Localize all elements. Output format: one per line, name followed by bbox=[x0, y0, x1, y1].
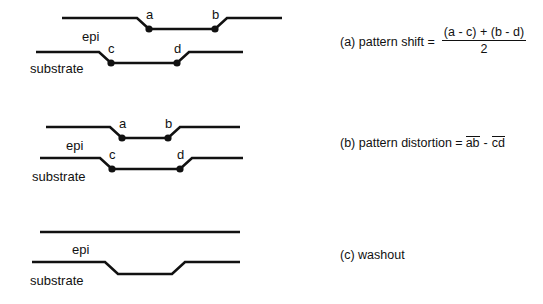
panel-c-epi-label: epi bbox=[72, 243, 89, 256]
panel-b-point-b-marker bbox=[164, 134, 171, 141]
panel-a-point-a-marker bbox=[145, 25, 152, 32]
panel-a-point-c-label: c bbox=[108, 42, 115, 55]
panel-b-point-d-marker bbox=[176, 165, 183, 172]
panel-b-point-c-marker bbox=[108, 165, 115, 172]
panel-a-substrate-label: substrate bbox=[30, 62, 83, 75]
panel-b-point-b-label: b bbox=[165, 117, 172, 130]
panel-a-point-c-marker bbox=[107, 59, 114, 66]
panel-a-point-b-label: b bbox=[212, 8, 219, 21]
panel-a-point-a-label: a bbox=[146, 8, 153, 21]
panel-b-caption-text: (b) pattern distortion = bbox=[340, 136, 463, 150]
panel-b-formula-term-1: ab bbox=[466, 136, 480, 150]
panel-a-epi-surface-line bbox=[62, 18, 282, 29]
panel-a-diagram bbox=[36, 18, 282, 67]
panel-a-formula-fraction: (a - c) + (b - d) 2 bbox=[442, 25, 526, 57]
panel-b-point-d-label: d bbox=[177, 148, 184, 161]
panel-b-caption: (b) pattern distortion = ab - cd bbox=[340, 136, 505, 150]
panel-c-diagram bbox=[32, 232, 240, 274]
panel-a-epi-label: epi bbox=[82, 30, 99, 43]
panel-a-point-b-marker bbox=[211, 25, 218, 32]
panel-c-substrate-label: substrate bbox=[30, 274, 83, 287]
panel-b-formula-term-2: cd bbox=[492, 136, 505, 150]
panel-a-caption: (a) pattern shift = (a - c) + (b - d) 2 bbox=[340, 26, 526, 58]
panel-a-point-d-marker bbox=[173, 59, 180, 66]
panel-c-caption-text: (c) washout bbox=[340, 248, 405, 262]
panel-b-point-a-marker bbox=[118, 134, 125, 141]
panel-b-formula-operator: - bbox=[484, 136, 488, 150]
panel-a-formula-numerator: (a - c) + (b - d) bbox=[442, 25, 526, 41]
panel-b-point-c-label: c bbox=[109, 148, 116, 161]
panel-b-epi-surface-line bbox=[46, 127, 240, 138]
panel-a-point-d-label: d bbox=[174, 42, 181, 55]
panel-b-point-a-label: a bbox=[119, 117, 126, 130]
panel-b-substrate-surface-line bbox=[40, 158, 243, 169]
panel-b-epi-label: epi bbox=[66, 139, 83, 152]
panel-b-substrate-label: substrate bbox=[32, 170, 85, 183]
panel-a-formula-denominator: 2 bbox=[480, 41, 487, 56]
panel-c-caption: (c) washout bbox=[340, 248, 408, 262]
panel-a-caption-text: (a) pattern shift = bbox=[340, 35, 435, 49]
